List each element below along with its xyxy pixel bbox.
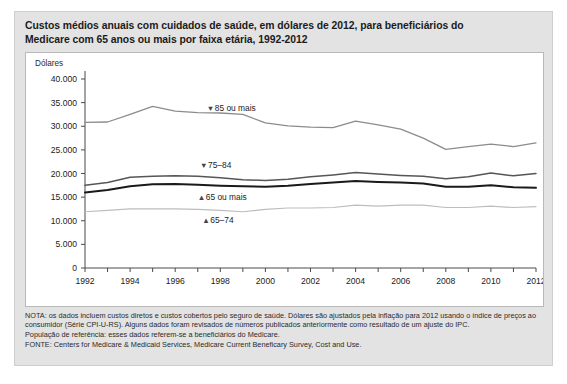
series-annotation-marker: ▼ xyxy=(200,161,208,170)
x-axis-tick-label: 2004 xyxy=(346,276,365,286)
figure-notes: NOTA: os dados incluem custos diretos e … xyxy=(25,311,544,350)
series-annotation-marker: ▲ xyxy=(202,216,210,225)
y-axis-tick-label: 40.000 xyxy=(51,74,78,84)
series-annotation-marker: ▲ xyxy=(198,193,206,202)
y-axis-tick-label: 25.000 xyxy=(51,145,78,155)
series-line xyxy=(85,181,536,192)
x-axis-tick-label: 1992 xyxy=(75,276,94,286)
series-line xyxy=(85,205,536,212)
chart-panel: Dólares 40.00035.00030.00025.00020.00015… xyxy=(25,52,544,307)
y-axis-tick-label: 5.000 xyxy=(55,239,77,249)
line-chart-svg: 40.00035.00030.00025.00020.00015.00010.0… xyxy=(26,53,543,306)
population-text: População de referência: esses dados ref… xyxy=(25,330,544,339)
y-axis-tick-label: 0 xyxy=(72,263,77,273)
figure-title: Custos médios anuais com cuidados de saú… xyxy=(15,12,552,50)
y-axis-tick-label: 30.000 xyxy=(51,121,78,131)
x-axis-tick-label: 2000 xyxy=(256,276,275,286)
page-title-line-1: Custos médios anuais com cuidados de saú… xyxy=(25,19,542,33)
figure-container: Custos médios anuais com cuidados de saú… xyxy=(14,11,553,366)
x-axis-tick-label: 1996 xyxy=(166,276,185,286)
y-axis-tick-label: 10.000 xyxy=(51,216,78,226)
x-axis-tick-label: 2012 xyxy=(526,276,543,286)
series-annotation-label: 85 ou mais xyxy=(215,103,256,113)
note-text: NOTA: os dados incluem custos diretos e … xyxy=(25,311,544,330)
x-axis-tick-label: 1994 xyxy=(121,276,140,286)
x-axis-tick-label: 2010 xyxy=(481,276,500,286)
y-axis-tick-label: 15.000 xyxy=(51,192,78,202)
series-line xyxy=(85,106,536,149)
series-annotation-label: 65 ou mais xyxy=(206,192,247,202)
x-axis-tick-label: 2002 xyxy=(301,276,320,286)
source-text: FONTE: Centers for Medicare & Medicaid S… xyxy=(25,340,544,349)
page-title-line-2: Medicare com 65 anos ou mais por faixa e… xyxy=(25,33,542,47)
x-axis-tick-label: 2006 xyxy=(391,276,410,286)
caption-sliver xyxy=(2,371,562,383)
y-axis-tick-label: 35.000 xyxy=(51,98,78,108)
series-annotation-label: 75–84 xyxy=(208,160,232,170)
y-axis-tick-label: 20.000 xyxy=(51,169,78,179)
series-annotation-marker: ▼ xyxy=(207,104,215,113)
x-axis-tick-label: 2008 xyxy=(436,276,455,286)
series-annotation-label: 65–74 xyxy=(210,215,234,225)
x-axis-tick-label: 1998 xyxy=(211,276,230,286)
